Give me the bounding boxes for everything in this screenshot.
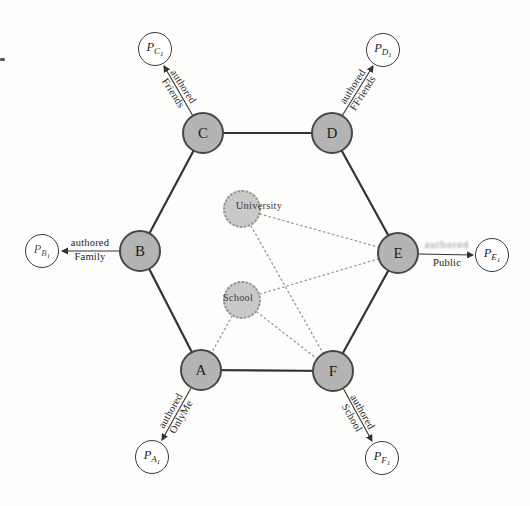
post-node-pc1-label: PC1 (146, 41, 163, 58)
dotted-university-e (260, 214, 378, 247)
post-node-pa1-label: PA1 (144, 449, 161, 466)
dotted-school-e (260, 259, 378, 294)
node-e: E (377, 232, 419, 274)
edge-label-b-family: authored Family (71, 236, 109, 264)
post-node-pe1-label: PE1 (484, 247, 501, 264)
scan-artifact-mark (0, 58, 5, 61)
post-node-pd1-label: PD1 (374, 42, 392, 59)
node-d-label: D (327, 125, 338, 142)
node-e-label: E (393, 245, 402, 262)
node-a-label: A (196, 362, 207, 379)
node-c-label: C (198, 125, 208, 142)
post-node-pb1: PB1 (25, 234, 59, 268)
node-b: B (119, 230, 161, 272)
dotted-university-f (251, 226, 323, 353)
node-a: A (180, 349, 222, 391)
dotted-school-a (212, 316, 232, 352)
post-node-pf1-label: PF1 (374, 450, 391, 467)
post-node-pb1-label: PB1 (34, 243, 51, 260)
node-d: D (311, 112, 353, 154)
node-f: F (312, 350, 354, 392)
dotted-school-f (257, 312, 316, 358)
diagram-canvas: C D B E A F University School PC1 PD1 PB… (0, 0, 530, 506)
group-label-school: School (223, 292, 253, 303)
group-label-university: University (236, 200, 282, 211)
post-node-pc1: PC1 (138, 32, 172, 66)
post-node-pe1: PE1 (475, 238, 509, 272)
node-c: C (182, 112, 224, 154)
node-f-label: F (329, 363, 337, 380)
post-node-pf1: PF1 (365, 441, 399, 475)
hexagon-edges (140, 133, 398, 371)
post-node-pd1: PD1 (366, 33, 400, 67)
edge-label-e-public: authored Public (425, 236, 470, 272)
node-b-label: B (135, 243, 145, 260)
post-node-pa1: PA1 (135, 440, 169, 474)
